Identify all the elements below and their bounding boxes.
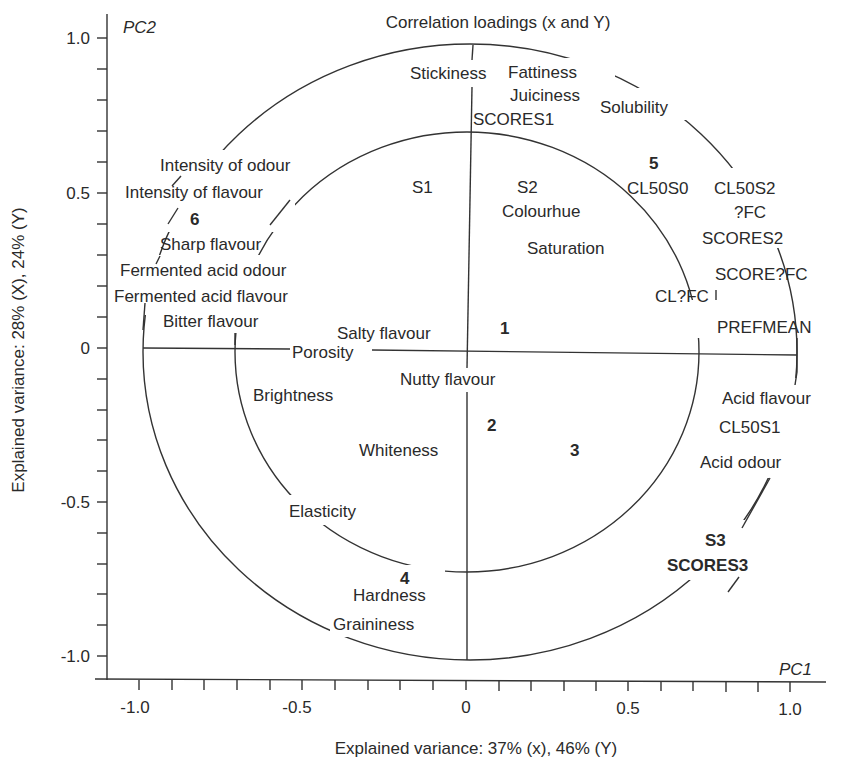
point-label: Colourhue [502,202,580,221]
x-tick-label: -0.5 [282,698,311,717]
y-tick-label: 0 [81,339,90,358]
point-label: CL50S1 [719,418,780,437]
point-label: SCORES1 [473,110,554,129]
point-label: Bitter flavour [163,312,259,331]
point-label: Hardness [353,586,426,605]
point-label: Saturation [527,239,605,258]
point-label: 5 [649,154,658,173]
point-label: Fattiness [508,63,577,82]
y-tick-label: 1.0 [66,29,90,48]
point-label: Juiciness [510,86,580,105]
point-label: SCORE?FC [715,265,808,284]
y-axis-name: PC2 [123,18,157,37]
point-label: Salty flavour [337,324,431,343]
horizontal-center-line [143,348,290,349]
point-label: CL50S0 [627,179,688,198]
horizontal-center-line-2 [372,350,797,355]
chart-svg: 1.0 0.5 0 -0.5 -1.0 -1.0 -0.5 0 0.5 1.0 … [0,0,844,776]
point-label: 3 [570,441,579,460]
point-label: CL50S2 [714,179,775,198]
point-label: 1 [500,319,509,338]
point-label: Fermented acid flavour [114,287,288,306]
point-label: Whiteness [359,441,438,460]
chart-title: Correlation loadings (x and Y) [386,13,611,32]
point-label: Nutty flavour [400,370,496,389]
point-label: Elasticity [289,502,357,521]
x-ticks [139,680,790,692]
y-tick-label: -1.0 [61,647,90,666]
vertical-center-line [472,45,473,60]
x-tick-label: -1.0 [120,698,149,717]
point-label: Sharp flavour [160,235,261,254]
y-tick-label: -0.5 [61,493,90,512]
point-label: Intensity of odour [160,156,291,175]
point-label: S2 [517,178,538,197]
x-axis-name: PC1 [779,660,812,679]
point-label: CL?FC [655,287,709,306]
point-label: PREFMEAN [717,318,811,337]
point-label: 6 [190,210,199,229]
point-label: Solubility [600,98,669,117]
x-tick-label: 0 [461,698,470,717]
point-label: Stickiness [410,64,487,83]
point-label: ?FC [734,203,766,222]
label-knockouts [112,58,840,637]
point-label: S1 [412,178,433,197]
point-label: Intensity of flavour [125,183,263,202]
x-tick-label: 1.0 [778,700,802,719]
y-tick-label: 0.5 [66,184,90,203]
point-label: Porosity [292,343,354,362]
point-label: Fermented acid odour [120,261,287,280]
vertical-center-line-2 [467,87,472,368]
correlation-loadings-chart: 1.0 0.5 0 -0.5 -1.0 -1.0 -0.5 0 0.5 1.0 … [0,0,844,776]
x-axis-title: Explained variance: 37% (x), 46% (Y) [335,739,618,758]
y-axis-title: Explained variance: 28% (X), 24% (Y) [9,207,28,492]
point-label: S3 [705,531,726,550]
point-label: 2 [487,416,496,435]
point-label: Acid flavour [722,389,811,408]
y-ticks [97,38,107,656]
point-label: Brightness [253,386,333,405]
point-label: SCORES2 [702,229,783,248]
point-label: Acid odour [700,453,782,472]
point-label: SCORES3 [667,556,748,575]
x-tick-label: 0.5 [616,699,640,718]
point-label: Graininess [333,615,414,634]
